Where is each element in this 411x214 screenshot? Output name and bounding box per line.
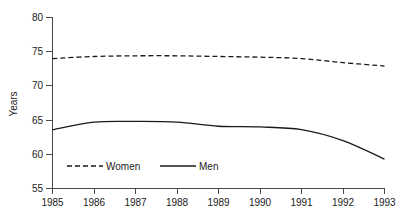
legend-label-women: Women (106, 161, 140, 172)
x-tick-label: 1992 (332, 197, 355, 208)
y-tick-label: 70 (32, 80, 44, 91)
x-axis-ticks: 1985 1986 1987 1988 1989 1990 1991 1992 … (41, 189, 396, 209)
series-line-men (53, 121, 385, 159)
x-tick-label: 1986 (83, 197, 106, 208)
y-axis-title: Years (8, 91, 19, 116)
legend-label-men: Men (199, 161, 218, 172)
y-tick-label: 75 (32, 46, 44, 57)
y-tick-label: 55 (32, 183, 44, 194)
x-tick-label: 1988 (166, 197, 189, 208)
series-line-women (53, 56, 385, 66)
chart-legend: Women Men (67, 161, 218, 172)
y-tick-label: 60 (32, 149, 44, 160)
x-tick-label: 1991 (290, 197, 313, 208)
clipped-title-remnant (0, 0, 411, 5)
x-tick-label: 1993 (373, 197, 396, 208)
chart-canvas: Years 80 75 70 65 60 55 1985 1986 (0, 0, 411, 214)
x-tick-label: 1987 (124, 197, 147, 208)
y-tick-label: 80 (32, 12, 44, 23)
x-tick-label: 1985 (41, 197, 64, 208)
x-tick-label: 1989 (207, 197, 230, 208)
y-axis-ticks: 80 75 70 65 60 55 (32, 12, 53, 194)
y-tick-label: 65 (32, 115, 44, 126)
line-chart-figure: Years 80 75 70 65 60 55 1985 1986 (0, 0, 411, 214)
x-tick-label: 1990 (249, 197, 272, 208)
